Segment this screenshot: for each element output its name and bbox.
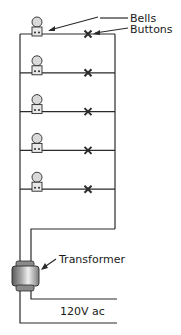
bell-terminal <box>38 32 40 34</box>
bell-terminal <box>38 109 40 111</box>
bell-icon <box>32 95 42 114</box>
bell-rung <box>20 95 115 116</box>
bell-terminal <box>38 148 40 150</box>
supply-line-top <box>31 290 117 299</box>
bell-rung <box>20 56 115 77</box>
doorbell-circuit-diagram: Bells Buttons Transformer 120V ac <box>0 0 181 335</box>
bell-rungs <box>20 17 115 193</box>
transformer-icon <box>12 261 39 291</box>
bell-terminal <box>34 109 36 111</box>
bell-base <box>32 66 42 75</box>
bell-rung <box>20 172 115 193</box>
transformer-label: Transformer <box>58 253 125 266</box>
bell-base <box>32 182 42 191</box>
bell-terminal <box>38 187 40 189</box>
bell-rung <box>20 17 115 38</box>
bells-leader-line <box>50 17 98 30</box>
bell-base <box>32 105 42 114</box>
bell-terminal <box>34 70 36 72</box>
transformer-arrowhead <box>41 263 48 270</box>
supply-voltage-label: 120V ac <box>60 305 105 318</box>
bell-icon <box>32 56 42 75</box>
bell-dome <box>32 17 42 27</box>
bell-icon <box>32 17 42 36</box>
bell-dome <box>32 133 42 143</box>
bell-dome <box>32 56 42 66</box>
bell-dome <box>32 95 42 105</box>
bell-rung <box>20 133 115 154</box>
bell-terminal <box>34 32 36 34</box>
bell-terminal <box>38 70 40 72</box>
bell-dome <box>32 172 42 182</box>
bell-terminal <box>34 187 36 189</box>
bell-icon <box>32 172 42 191</box>
bell-terminal <box>34 148 36 150</box>
bell-icon <box>32 133 42 152</box>
bells-arrowhead <box>48 26 55 31</box>
buttons-label: Buttons <box>130 23 173 36</box>
bell-base <box>32 27 42 36</box>
bell-base <box>32 143 42 152</box>
